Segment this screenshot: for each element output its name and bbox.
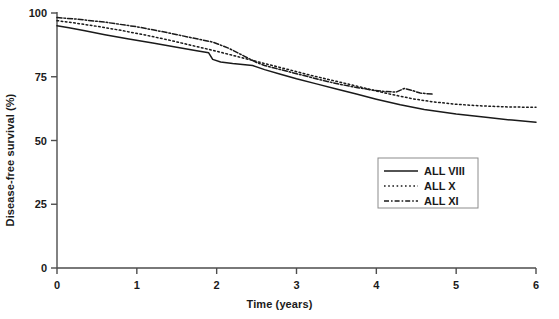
legend-label-all-x: ALL X xyxy=(424,180,456,192)
legend-label-all-viii: ALL VIII xyxy=(424,165,465,177)
x-tick-label: 5 xyxy=(453,279,459,291)
y-tick-label: 50 xyxy=(35,135,47,147)
axes xyxy=(51,12,536,274)
y-tick-label: 100 xyxy=(29,7,47,19)
x-tick-label: 3 xyxy=(293,279,299,291)
chart-legend: ALL VIIIALL XALL XI xyxy=(378,158,478,208)
chart-figure: Disease-free survival (%) Time (years) 0… xyxy=(0,0,559,319)
x-tick-label: 6 xyxy=(533,279,539,291)
series-line-all-x xyxy=(57,21,536,108)
x-tick-label: 1 xyxy=(134,279,140,291)
y-tick-label: 0 xyxy=(41,262,47,274)
x-tick-label: 4 xyxy=(373,279,380,291)
x-tick-label: 0 xyxy=(54,279,60,291)
plot-area: 02550751000123456 ALL VIIIALL XALL XI xyxy=(0,0,559,319)
y-tick-label: 75 xyxy=(35,71,47,83)
y-tick-label: 25 xyxy=(35,198,47,210)
data-series xyxy=(57,18,536,123)
tick-labels: 02550751000123456 xyxy=(29,7,539,291)
x-tick-label: 2 xyxy=(214,279,220,291)
legend-label-all-xi: ALL XI xyxy=(424,195,459,207)
